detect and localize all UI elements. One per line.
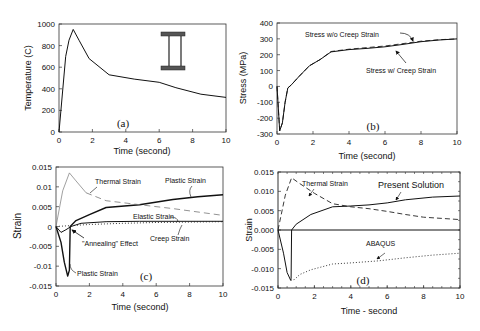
annotation-arrow: [396, 192, 401, 200]
plot-frame: [277, 23, 457, 134]
x-tick-label: 2: [311, 138, 316, 147]
y-tick-label: 0: [48, 223, 53, 232]
panel-tag: (a): [117, 117, 130, 130]
x-tick-label: 2: [312, 292, 317, 301]
y-tick-label: 800: [42, 42, 56, 51]
x-tick-label: 0: [276, 292, 281, 301]
y-tick-label: -0.010: [251, 265, 274, 274]
y-tick-label: -0.01: [34, 262, 53, 271]
annotation-arrow: [400, 33, 413, 41]
x-tick-label: 2: [87, 290, 92, 299]
y-tick-label: -100: [257, 98, 274, 107]
annotation-plastic-strain-top: Plastic Strain: [165, 177, 206, 184]
panel-a-temperature-chart: 02004006008001000 0246810 (a) Time (seco…: [23, 20, 231, 156]
y-tick-label: -0.015: [251, 284, 274, 293]
series-line-temperature: [59, 29, 226, 132]
annotation-leader: [70, 264, 76, 273]
series-line-stress-w-o-creep-strain: [277, 39, 457, 131]
x-tick-label: 10: [453, 138, 462, 147]
figure-canvas: 02004006008001000 0246810 (a) Time (seco…: [0, 0, 480, 331]
panel-tag: (b): [367, 120, 380, 133]
x-tick-label: 4: [347, 138, 352, 147]
x-tick-label: 0: [54, 290, 59, 299]
annotation-arrow: [72, 230, 84, 238]
annotation-annealing-effect: "Annealing" Effect: [82, 240, 138, 248]
x-tick-label: 2: [90, 136, 95, 145]
y-tick-label: 0.005: [254, 207, 275, 216]
x-tick-label: 6: [383, 138, 388, 147]
x-axis-ticks: 0246810: [275, 131, 462, 147]
y-tick-label: 0: [269, 82, 274, 91]
x-tick-label: 4: [121, 290, 126, 299]
x-tick-label: 8: [421, 292, 426, 301]
y-tick-label: -0.005: [251, 245, 274, 254]
x-axis-label: Time (second): [113, 146, 170, 156]
annotation-creep-strain: Creep Strain: [150, 235, 189, 243]
y-tick-label: 0.01: [36, 183, 52, 192]
y-axis-ticks: -0.015-0.010-0.0050.0000.0050.0100.015: [251, 168, 281, 293]
x-tick-label: 8: [187, 290, 192, 299]
x-axis-label: Time (second): [111, 302, 168, 312]
series-group: [277, 39, 457, 131]
panel-c-strain-components-chart: -0.015-0.01-0.00500.0050.010.015 0246810…: [12, 163, 228, 312]
y-tick-label: 0.005: [32, 203, 53, 212]
annotation-thermal-strain: Thermal Strain: [95, 178, 141, 185]
x-tick-label: 8: [419, 138, 424, 147]
panel-b-stress-chart: -300-200-1000100200300400 0246810 Stress…: [238, 19, 462, 161]
y-tick-label: -300: [257, 130, 274, 139]
y-tick-label: 0.015: [254, 168, 275, 177]
x-tick-label: 6: [385, 292, 390, 301]
x-axis-label: Time - second: [341, 306, 398, 316]
y-axis-label: Strain: [244, 218, 254, 242]
plot-frame: [59, 24, 226, 132]
y-tick-label: 0: [51, 128, 56, 137]
x-axis-label: Time (second): [338, 151, 395, 161]
series-line-creep-strain: [56, 222, 223, 227]
x-axis-ticks: 0246810: [54, 283, 228, 299]
annotation-arrow: [396, 51, 406, 63]
y-tick-label: 0.010: [254, 187, 275, 196]
y-tick-label: 0.000: [254, 226, 275, 235]
series-line-abaqus: [291, 253, 460, 280]
y-tick-label: 200: [260, 51, 274, 60]
x-axis-ticks: 0246810: [276, 285, 465, 301]
annotation-leader: [178, 225, 182, 235]
panel-tag: (d): [357, 274, 370, 287]
annotation-elastic-strain: Elastic Strain: [133, 213, 174, 220]
i-beam-icon: [161, 32, 185, 70]
y-axis-ticks: 02004006008001000: [37, 20, 62, 137]
y-tick-label: 200: [42, 106, 56, 115]
x-tick-label: 10: [222, 136, 231, 145]
panel-tag: (c): [140, 270, 153, 283]
x-tick-label: 6: [154, 290, 159, 299]
panel-d-strain-comparison-chart: -0.015-0.010-0.0050.0000.0050.0100.015 0…: [244, 168, 465, 316]
annotation-arrow: [377, 253, 385, 259]
series-line-stress-w-creep-strain: [277, 39, 457, 131]
x-tick-label: 8: [190, 136, 195, 145]
series-group: [59, 29, 226, 132]
series-line-plastic-strain: [56, 195, 223, 276]
x-tick-label: 0: [57, 136, 62, 145]
annotation-stress-without-creep: Stress w/o Creep Strain: [305, 31, 379, 39]
x-tick-label: 0: [275, 138, 280, 147]
x-tick-label: 10: [456, 292, 465, 301]
annotation-present-solution: Present Solution: [378, 180, 444, 190]
y-axis-label: Strain: [12, 213, 23, 239]
y-tick-label: -0.005: [29, 242, 52, 251]
x-axis-ticks: 0246810: [57, 129, 231, 145]
x-tick-label: 6: [157, 136, 162, 145]
series-line-elastic-strain: [56, 221, 223, 232]
y-tick-label: 400: [42, 85, 56, 94]
y-tick-label: -0.015: [29, 282, 52, 291]
y-tick-label: 0.015: [32, 163, 53, 172]
series-group: [56, 173, 223, 276]
y-tick-label: 600: [42, 63, 56, 72]
y-axis-label: Temperature (C): [23, 45, 33, 111]
y-tick-label: 300: [260, 35, 274, 44]
y-tick-label: -200: [257, 114, 274, 123]
annotation-plastic-strain-bottom: Plastic Strain: [77, 270, 118, 277]
annotation-abaqus: ABAQUS: [366, 240, 396, 248]
x-tick-label: 4: [349, 292, 354, 301]
annotation-leader: [90, 187, 97, 193]
annotation-thermal-strain: Thermal Strain: [302, 180, 348, 187]
